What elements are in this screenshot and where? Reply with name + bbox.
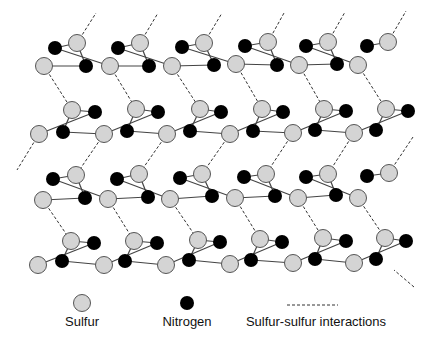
nitrogen-atom: [276, 105, 290, 119]
sulfur-atom: [102, 58, 119, 75]
legend-label-sulfur: Sulfur: [65, 314, 99, 329]
sulfur-atom: [36, 58, 53, 75]
nitrogen-atom: [87, 236, 101, 250]
nitrogen-atom: [339, 234, 353, 248]
nitrogen-atom: [110, 172, 124, 186]
sulfur-atom: [346, 125, 363, 142]
nitrogen-atom: [118, 254, 132, 268]
nitrogen-atom: [369, 252, 383, 266]
sulfur-atom: [350, 190, 367, 207]
nitrogen-atom: [46, 172, 60, 186]
nitrogen-atom: [244, 253, 258, 267]
sulfur-atom: [162, 191, 179, 208]
sulfur-atom: [381, 165, 398, 182]
sulfur-atom: [222, 126, 239, 143]
bonds: [38, 42, 408, 265]
sulfur-atom: [190, 232, 207, 249]
sulfur-atom: [222, 256, 239, 273]
sulfur-atom: [63, 233, 80, 250]
sulfur-atom: [285, 125, 302, 142]
sulfur-atom: [96, 257, 113, 274]
nitrogen-atom: [329, 188, 343, 202]
sulfur-atom: [378, 101, 395, 118]
sulfur-atom: [131, 166, 148, 183]
legend-nitrogen-symbol: [180, 296, 194, 310]
sulfur-atom: [258, 166, 275, 183]
legend-symbols: [74, 295, 339, 312]
sulfur-atom: [252, 231, 269, 248]
interaction-line: [394, 270, 414, 287]
nitrogen-atom: [111, 41, 125, 55]
nitrogen-atom: [299, 170, 313, 184]
nitrogen-atom: [268, 189, 282, 203]
sulfur-atom: [285, 255, 302, 272]
nitrogen-atom: [183, 124, 197, 138]
nitrogen-atom: [339, 104, 353, 118]
nitrogen-atom: [56, 125, 70, 139]
nitrogen-atom: [308, 123, 322, 137]
legend-sulfur-symbol: [74, 295, 91, 312]
nitrogen-atom: [48, 41, 62, 55]
nitrogen-atom: [308, 252, 322, 266]
nitrogen-atom: [214, 105, 228, 119]
sulfur-atom: [320, 166, 337, 183]
sulfur-atom: [227, 190, 244, 207]
sulfur-atom: [320, 34, 337, 51]
nitrogen-atom: [213, 235, 227, 249]
sulfur-atom: [35, 192, 52, 209]
nitrogen-atom: [175, 40, 189, 54]
sulfur-atom: [316, 101, 333, 118]
legend-label-interactions: Sulfur-sulfur interactions: [246, 314, 386, 329]
sulfur-atom: [290, 190, 307, 207]
sn-lattice-diagram: [0, 0, 429, 343]
sulfur-atom: [346, 255, 363, 272]
sulfur-atom: [132, 35, 149, 52]
nitrogen-atom: [79, 59, 93, 73]
nitrogen-atom: [270, 58, 284, 72]
sulfur-atom: [68, 167, 85, 184]
sulfur-atom: [377, 230, 394, 247]
sulfur-atom: [228, 56, 245, 73]
nitrogen-atom: [275, 235, 289, 249]
nitrogen-atom: [150, 236, 164, 250]
legend-label-nitrogen: Nitrogen: [162, 314, 211, 329]
nitrogen-atom: [141, 190, 155, 204]
sulfur-atom: [159, 126, 176, 143]
nitrogen-atom: [78, 191, 92, 205]
nitrogen-atom: [360, 39, 374, 53]
nitrogen-atom: [142, 59, 156, 73]
nitrogen-atom: [299, 39, 313, 53]
sulfur-atom: [192, 101, 209, 118]
nitrogen-atom: [369, 123, 383, 137]
nitrogen-atom: [55, 254, 69, 268]
nitrogen-atom: [182, 253, 196, 267]
sulfur-atom: [194, 166, 211, 183]
sulfur-atom: [291, 57, 308, 74]
sulfur-atom: [260, 34, 277, 51]
sulfur-atom: [315, 230, 332, 247]
sulfur-atom: [164, 58, 181, 75]
sulfur-atom: [64, 102, 81, 119]
sulfur-atom: [126, 233, 143, 250]
nitrogen-atom: [205, 189, 219, 203]
nitrogen-atom: [120, 124, 134, 138]
nitrogen-atom: [238, 39, 252, 53]
sulfur-atom: [30, 257, 47, 274]
sulfur-atom: [380, 34, 397, 51]
nitrogen-atom: [360, 169, 374, 183]
sulfur-atom: [158, 257, 175, 274]
nitrogen-atom: [246, 124, 260, 138]
nitrogen-atom: [237, 170, 251, 184]
sulfur-atom: [96, 126, 113, 143]
sulfur-atom: [196, 35, 213, 52]
nitrogen-atom: [330, 57, 344, 71]
nitrogen-atom: [401, 104, 415, 118]
nitrogen-atom: [88, 105, 102, 119]
sulfur-atom: [69, 35, 86, 52]
sulfur-atom: [128, 101, 145, 118]
nitrogen-atom: [399, 234, 413, 248]
sulfur-atom: [31, 126, 48, 143]
atoms: [30, 34, 416, 274]
sulfur-atom: [100, 191, 117, 208]
nitrogen-atom: [151, 105, 165, 119]
